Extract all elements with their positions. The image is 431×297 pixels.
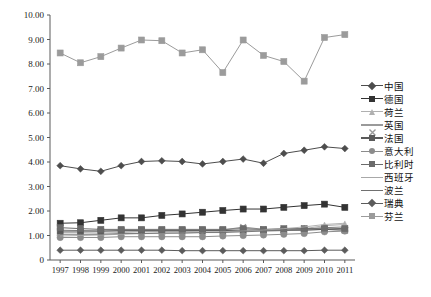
legend-diamond-icon bbox=[361, 80, 383, 92]
data-point-marker bbox=[260, 160, 267, 167]
legend-item-label: 法国 bbox=[384, 131, 404, 145]
x-axis-tick-label: 2011 bbox=[332, 265, 358, 275]
data-point-marker bbox=[321, 247, 328, 254]
data-point-marker bbox=[159, 234, 165, 240]
legend-item-label: 中国 bbox=[384, 79, 404, 93]
data-point-marker bbox=[179, 247, 186, 254]
data-point-marker bbox=[200, 47, 206, 53]
data-point-marker bbox=[139, 226, 145, 232]
y-axis-tick-label: 4.00 bbox=[0, 157, 44, 167]
data-point-marker bbox=[322, 35, 328, 41]
data-point-marker bbox=[200, 226, 206, 232]
data-point-marker bbox=[220, 208, 226, 214]
data-point-marker bbox=[342, 204, 348, 210]
legend-item[interactable]: 比利时 bbox=[361, 158, 431, 171]
data-point-marker bbox=[179, 50, 185, 56]
data-point-marker bbox=[280, 150, 287, 157]
data-point-marker bbox=[321, 143, 328, 150]
data-point-marker bbox=[280, 247, 287, 254]
data-point-marker bbox=[98, 54, 104, 60]
data-point-marker bbox=[159, 212, 165, 218]
data-point-marker bbox=[219, 158, 226, 165]
series-9 bbox=[57, 247, 348, 254]
y-axis-tick-label: 3.00 bbox=[0, 182, 44, 192]
legend-item[interactable]: 西班牙 bbox=[361, 171, 431, 184]
legend-item-label: 英国 bbox=[384, 118, 404, 132]
data-point-marker bbox=[260, 247, 267, 254]
data-point-marker bbox=[97, 247, 104, 254]
data-point-marker bbox=[341, 247, 348, 254]
y-axis-tick-label: 0 bbox=[0, 255, 44, 265]
data-point-marker bbox=[77, 247, 84, 254]
legend-item-label: 波兰 bbox=[384, 183, 404, 197]
data-point-marker bbox=[260, 232, 266, 238]
data-point-marker bbox=[281, 59, 287, 65]
y-axis-tick-label: 6.00 bbox=[0, 108, 44, 118]
y-axis-tick-label: 2.00 bbox=[0, 206, 44, 216]
y-axis-tick-label: 5.00 bbox=[0, 133, 44, 143]
legend-item[interactable]: 芬兰 bbox=[361, 210, 431, 223]
legend-square-icon bbox=[361, 158, 383, 170]
data-point-marker bbox=[281, 204, 287, 210]
data-point-marker bbox=[158, 157, 165, 164]
data-point-marker bbox=[220, 233, 226, 239]
data-point-marker bbox=[118, 45, 124, 51]
data-point-marker bbox=[179, 226, 185, 232]
data-point-marker bbox=[219, 247, 226, 254]
data-point-marker bbox=[179, 211, 185, 217]
data-point-marker bbox=[301, 203, 307, 209]
line-chart: 01.002.003.004.005.006.007.008.009.0010.… bbox=[0, 0, 431, 297]
y-axis-tick-label: 10.00 bbox=[0, 10, 44, 20]
legend-diamond-icon bbox=[361, 197, 383, 209]
y-axis-tick-label: 9.00 bbox=[0, 35, 44, 45]
data-point-marker bbox=[220, 70, 226, 76]
data-point-marker bbox=[158, 247, 165, 254]
legend-none-icon bbox=[361, 171, 383, 183]
legend-item[interactable]: 荷兰 bbox=[361, 105, 431, 118]
data-point-marker bbox=[98, 217, 104, 223]
legend-square-icon bbox=[361, 210, 383, 222]
data-point-marker bbox=[57, 225, 63, 231]
data-point-marker bbox=[342, 32, 348, 38]
legend-item[interactable]: 瑞典 bbox=[361, 197, 431, 210]
data-point-marker bbox=[240, 37, 246, 43]
legend-item[interactable]: 德国 bbox=[361, 92, 431, 105]
data-point-marker bbox=[341, 145, 348, 152]
y-axis-tick-label: 8.00 bbox=[0, 59, 44, 69]
legend-item[interactable]: 中国 bbox=[361, 79, 431, 92]
data-point-marker bbox=[97, 168, 104, 175]
legend-item[interactable]: 意大利 bbox=[361, 144, 431, 157]
legend-x-icon bbox=[361, 119, 383, 131]
data-point-marker bbox=[57, 234, 63, 240]
data-point-marker bbox=[199, 234, 205, 240]
legend-item[interactable]: 法国 bbox=[361, 131, 431, 144]
data-point-marker bbox=[98, 226, 104, 232]
data-point-marker bbox=[78, 220, 84, 226]
data-point-marker bbox=[200, 209, 206, 215]
data-point-marker bbox=[281, 231, 287, 237]
data-point-marker bbox=[118, 215, 124, 221]
series-1 bbox=[57, 201, 348, 226]
data-point-marker bbox=[57, 50, 63, 56]
data-point-marker bbox=[159, 226, 165, 232]
legend-triangle-icon bbox=[361, 106, 383, 118]
data-point-marker bbox=[57, 247, 64, 254]
data-point-marker bbox=[301, 147, 308, 154]
data-point-marker bbox=[301, 247, 308, 254]
data-point-marker bbox=[240, 206, 246, 212]
data-point-marker bbox=[118, 226, 124, 232]
legend-square-icon bbox=[361, 132, 383, 144]
legend-item[interactable]: 波兰 bbox=[361, 184, 431, 197]
data-point-marker bbox=[199, 247, 206, 254]
y-axis-tick-label: 1.00 bbox=[0, 231, 44, 241]
legend-item-label: 西班牙 bbox=[384, 170, 413, 184]
legend-item-label: 德国 bbox=[384, 92, 404, 106]
data-point-marker bbox=[77, 165, 84, 172]
legend-item-label: 瑞典 bbox=[384, 196, 404, 210]
series-6 bbox=[57, 225, 348, 233]
legend-item[interactable]: 英国 bbox=[361, 118, 431, 131]
data-point-marker bbox=[138, 158, 145, 165]
data-point-marker bbox=[159, 38, 165, 44]
legend-square-icon bbox=[361, 93, 383, 105]
legend-item-label: 荷兰 bbox=[384, 105, 404, 119]
